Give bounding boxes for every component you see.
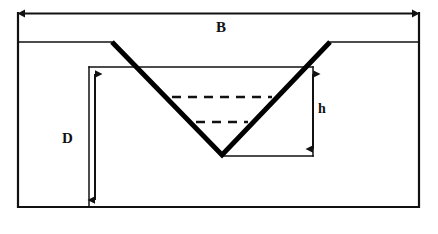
dimension-label-top-width: B bbox=[216, 20, 226, 35]
diagram-canvas bbox=[0, 0, 438, 234]
channel-cross-section-diagram: B D h bbox=[0, 0, 438, 234]
dimension-label-flow-depth: h bbox=[318, 102, 326, 116]
dimension-label-depth: D bbox=[62, 131, 73, 146]
trapezoidal-channel-outline bbox=[112, 42, 330, 155]
